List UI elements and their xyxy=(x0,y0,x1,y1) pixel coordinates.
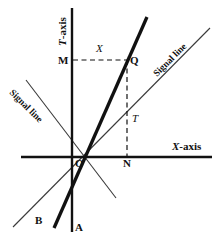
point-label-o: O xyxy=(75,158,84,169)
spacetime-diagram-figure: T-axis X-axis Signal line Signal line M … xyxy=(0,0,222,240)
t-axis-label-letter: T xyxy=(56,39,68,46)
x-axis-label: X-axis xyxy=(172,141,201,152)
point-label-n: N xyxy=(123,158,131,169)
point-label-b: B xyxy=(35,215,42,226)
time-interval-label: T xyxy=(132,113,138,124)
point-label-q: Q xyxy=(130,55,139,66)
point-label-a: A xyxy=(75,222,83,233)
point-label-m: M xyxy=(58,55,68,66)
t-axis-label-suffix: -axis xyxy=(56,17,68,39)
space-interval-label: X xyxy=(96,43,103,54)
signal-line-ne-sw xyxy=(13,28,210,227)
x-axis-label-suffix: -axis xyxy=(179,140,201,152)
t-axis-label: T-axis xyxy=(57,17,68,46)
